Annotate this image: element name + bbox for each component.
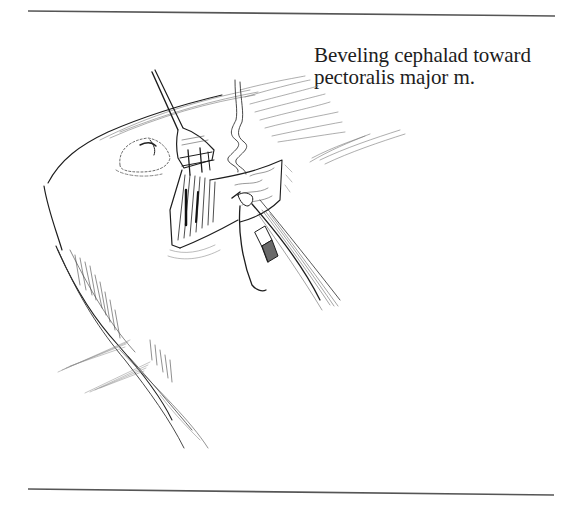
nipple-areola (116, 138, 170, 176)
electrocautery-pencil (232, 192, 340, 310)
shading-strokes (100, 76, 405, 164)
surgical-illustration (0, 0, 584, 518)
figure-page: Beveling cephalad toward pectoralis majo… (0, 0, 584, 518)
retractor-fork (152, 70, 214, 175)
